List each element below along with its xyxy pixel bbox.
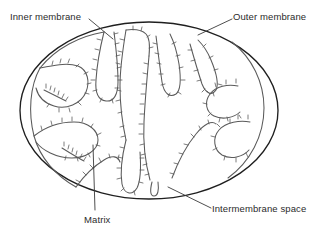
label-intermembrane-space: Intermembrane space [212, 203, 306, 214]
figure-canvas: Inner membrane Outer membrane Matrix Int… [0, 0, 329, 237]
label-inner-membrane: Inner membrane [10, 11, 81, 22]
mitochondrion-diagram [0, 0, 329, 237]
label-outer-membrane: Outer membrane [233, 11, 306, 22]
leader-outer-membrane [198, 19, 232, 35]
label-matrix: Matrix [84, 214, 110, 225]
